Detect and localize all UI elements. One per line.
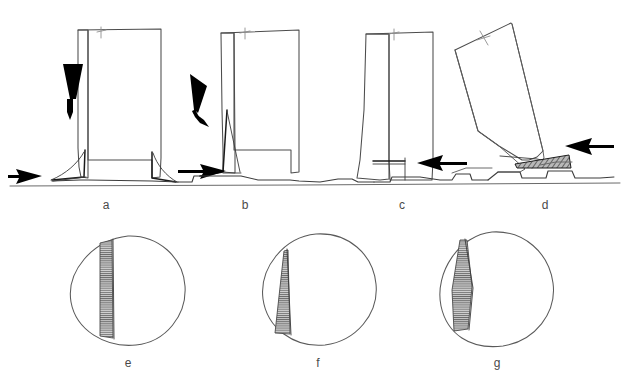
panel-label-d: d: [542, 198, 549, 212]
panel-label-g: g: [494, 356, 501, 370]
panel-label-b: b: [242, 198, 249, 212]
panel-label-c: c: [399, 198, 405, 212]
trunk-failure-figure: a b: [0, 0, 622, 387]
figure-root: a b: [0, 0, 622, 387]
figure-background: [0, 0, 622, 387]
panel-label-a: a: [103, 198, 110, 212]
panel-label-e: e: [125, 356, 132, 370]
cross-section-e-wedge: [100, 240, 113, 338]
